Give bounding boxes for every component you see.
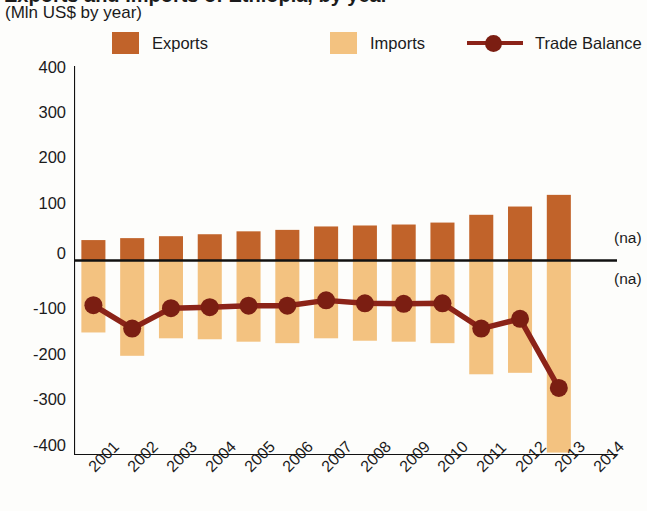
na-label-below-axis: (na)	[614, 270, 642, 288]
trade-balance-point	[240, 297, 258, 315]
export-bar	[430, 223, 454, 261]
chart-subtitle: (Mln US$ by year)	[5, 3, 142, 23]
trade-balance-point	[472, 320, 490, 338]
trade-balance-point	[317, 291, 335, 309]
chart-container: Exports and Imports of Ethiopia, by year…	[0, 0, 647, 511]
trade-balance-point	[84, 296, 102, 314]
na-label-above-axis: (na)	[614, 229, 642, 247]
y-tick-100: 100	[12, 195, 66, 211]
y-tick-neg200: -200	[12, 346, 66, 362]
y-tick-0: 0	[12, 245, 66, 261]
trade-balance-point	[123, 320, 141, 338]
export-bar	[275, 230, 299, 261]
trade-balance-point	[433, 294, 451, 312]
export-bar	[120, 238, 144, 260]
trade-balance-point	[395, 295, 413, 313]
import-bar	[120, 261, 144, 356]
export-bar	[314, 226, 338, 260]
legend-line-dot-icon	[467, 33, 523, 53]
legend-swatch-exports-icon	[112, 32, 139, 54]
y-tick-neg400: -400	[12, 437, 66, 453]
y-tick-400: 400	[12, 59, 66, 75]
y-tick-300: 300	[12, 104, 66, 120]
trade-balance-point	[511, 310, 529, 328]
trade-balance-point	[201, 298, 219, 316]
plot-area	[74, 66, 617, 455]
trade-balance-point	[162, 299, 180, 317]
import-bar	[547, 261, 571, 453]
y-tick-neg100: -100	[12, 300, 66, 316]
legend-label-trade-balance: Trade Balance	[535, 34, 642, 53]
legend-label-imports: Imports	[370, 34, 425, 53]
legend-label-exports: Exports	[152, 34, 208, 53]
trade-balance-point	[356, 294, 374, 312]
export-bar	[547, 195, 571, 261]
y-tick-200: 200	[12, 149, 66, 165]
chart-svg	[74, 66, 617, 455]
legend-item-exports: Exports	[112, 30, 208, 56]
export-bar	[198, 234, 222, 260]
x-axis-labels: 2001200220032004200520062007200820092010…	[74, 455, 634, 511]
export-bars-group	[81, 195, 570, 261]
export-bar	[353, 225, 377, 260]
chart-legend: Exports Imports Trade Balance	[112, 30, 632, 56]
import-bars-group	[81, 261, 570, 453]
legend-swatch-imports-icon	[330, 32, 357, 54]
export-bar	[159, 236, 183, 260]
export-bar	[392, 225, 416, 261]
trade-balance-line-group	[84, 291, 567, 397]
trade-balance-point	[550, 379, 568, 397]
export-bar	[469, 215, 493, 261]
y-axis-labels: 400 300 200 100 0 -100 -200 -300 -400	[8, 66, 66, 455]
export-bar	[508, 207, 532, 261]
legend-item-imports: Imports	[330, 30, 425, 56]
export-bar	[237, 231, 261, 260]
y-tick-neg300: -300	[12, 391, 66, 407]
legend-item-trade-balance: Trade Balance	[467, 30, 642, 56]
export-bar	[81, 240, 105, 260]
trade-balance-point	[278, 297, 296, 315]
import-bar	[469, 261, 493, 375]
